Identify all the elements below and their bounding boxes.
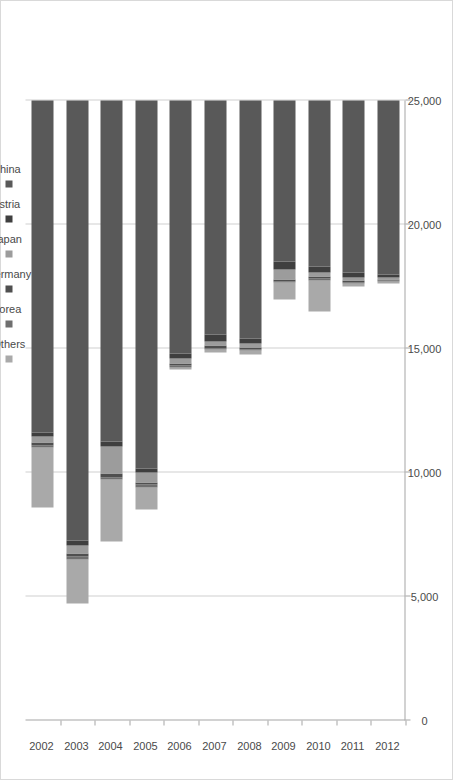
legend-swatch-icon — [5, 180, 12, 187]
legend-swatch-icon — [5, 250, 12, 257]
bar-2005[interactable] — [135, 100, 157, 720]
legend-label: Austria — [0, 198, 32, 211]
legend-item-korea[interactable]: Korea — [2, 303, 15, 327]
bar-segment-china — [342, 100, 364, 272]
value-tick-label-20000: 20,000 — [399, 218, 449, 230]
category-tick-mark — [301, 720, 302, 725]
legend-label: All Others — [0, 338, 41, 351]
bar-segment-all-others — [66, 559, 88, 604]
legend-item-austria[interactable]: Austria — [2, 198, 15, 222]
bar-segment-austria — [169, 353, 191, 358]
bar-segment-austria — [239, 338, 261, 343]
category-tick-label-2010: 2010 — [301, 739, 335, 751]
bar-segment-austria — [273, 261, 295, 268]
bar-segment-china — [66, 100, 88, 540]
category-tick-mark — [405, 720, 406, 725]
legend-item-germany[interactable]: Germany — [2, 268, 15, 292]
rotation-stage: 05,00010,00015,00020,00025,000 200220032… — [0, 0, 453, 780]
chart-legend: All OthersKoreaGermanyJapanAustriaChina — [2, 163, 15, 362]
legend-item-japan[interactable]: Japan — [2, 233, 15, 257]
bar-segment-all-others — [31, 447, 53, 507]
bar-2010[interactable] — [308, 100, 330, 720]
category-tick-label-2009: 2009 — [266, 739, 300, 751]
bar-segment-austria — [135, 468, 157, 472]
category-tick-label-2002: 2002 — [24, 739, 58, 751]
bar-segment-japan — [273, 269, 295, 279]
bar-2006[interactable] — [169, 100, 191, 720]
bar-segment-austria — [308, 266, 330, 272]
category-tick-mark — [336, 720, 337, 725]
bar-segment-japan — [100, 446, 122, 473]
category-tick-mark — [129, 720, 130, 725]
bar-segment-china — [239, 100, 261, 338]
bar-segment-all-others — [308, 280, 330, 311]
bar-segment-germany — [66, 553, 88, 557]
bar-segment-japan — [239, 343, 261, 347]
category-tick-label-2008: 2008 — [232, 739, 266, 751]
bar-2012[interactable] — [377, 100, 399, 720]
bar-segment-all-others — [239, 350, 261, 354]
category-tick-mark — [60, 720, 61, 725]
bar-segment-china — [31, 100, 53, 432]
value-tick-label-15000: 15,000 — [399, 342, 449, 354]
category-tick-label-2003: 2003 — [59, 739, 93, 751]
category-tick-mark — [267, 720, 268, 725]
category-tick-label-2007: 2007 — [197, 739, 231, 751]
legend-swatch-icon — [5, 355, 12, 362]
category-tick-label-2005: 2005 — [128, 739, 162, 751]
category-tick-label-2012: 2012 — [370, 739, 404, 751]
bar-segment-japan — [135, 472, 157, 482]
bar-2008[interactable] — [239, 100, 261, 720]
legend-item-all-others[interactable]: All Others — [2, 338, 15, 362]
category-tick-mark — [94, 720, 95, 725]
legend-item-china[interactable]: China — [2, 163, 15, 187]
bar-segment-china — [308, 100, 330, 266]
legend-label: Germany — [0, 268, 32, 281]
bar-segment-japan — [308, 272, 330, 276]
value-tick-label-0: 0 — [399, 714, 449, 726]
legend-label: China — [0, 163, 26, 176]
category-tick-mark — [232, 720, 233, 725]
bar-segment-japan — [31, 436, 53, 442]
legend-swatch-icon — [5, 215, 12, 222]
bar-segment-japan — [169, 358, 191, 363]
bar-segment-austria — [204, 334, 226, 340]
category-tick-mark — [163, 720, 164, 725]
chart-frame: 05,00010,00015,00020,00025,000 200220032… — [0, 0, 453, 780]
bar-segment-austria — [100, 441, 122, 446]
category-axis-line — [404, 100, 405, 720]
bar-segment-japan — [66, 545, 88, 552]
bar-segment-all-others — [273, 282, 295, 299]
bar-2003[interactable] — [66, 100, 88, 720]
bar-segment-all-others — [100, 479, 122, 541]
bar-2002[interactable] — [31, 100, 53, 720]
bar-segment-austria — [66, 540, 88, 545]
bar-segment-china — [377, 100, 399, 274]
bar-segment-china — [169, 100, 191, 353]
plot-wrapper: 05,00010,00015,00020,00025,000 200220032… — [0, 0, 453, 780]
value-tick-label-5000: 5,000 — [399, 590, 449, 602]
bar-2007[interactable] — [204, 100, 226, 720]
plot-area — [25, 100, 405, 720]
legend-swatch-icon — [5, 320, 12, 327]
bar-segment-all-others — [135, 487, 157, 509]
bar-2004[interactable] — [100, 100, 122, 720]
category-tick-label-2006: 2006 — [162, 739, 196, 751]
bar-segment-china — [135, 100, 157, 468]
bar-segment-austria — [377, 274, 399, 278]
bar-segment-china — [273, 100, 295, 261]
category-tick-mark — [370, 720, 371, 725]
bar-segment-austria — [31, 432, 53, 436]
bar-segment-china — [100, 100, 122, 441]
category-tick-mark — [198, 720, 199, 725]
bar-segment-austria — [342, 272, 364, 277]
category-tick-label-2011: 2011 — [335, 739, 369, 751]
bar-segment-germany — [100, 473, 122, 477]
legend-swatch-icon — [5, 285, 12, 292]
bar-2011[interactable] — [342, 100, 364, 720]
value-tick-label-25000: 25,000 — [399, 94, 449, 106]
bar-segment-japan — [204, 341, 226, 346]
legend-label: Japan — [0, 233, 26, 246]
bar-segment-china — [204, 100, 226, 334]
bar-2009[interactable] — [273, 100, 295, 720]
